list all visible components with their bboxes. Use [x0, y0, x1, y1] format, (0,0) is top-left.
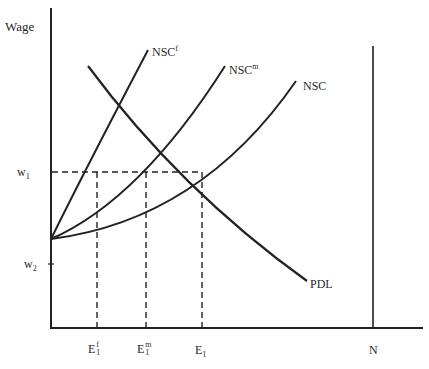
- e1m-sub: 1: [145, 349, 151, 357]
- nsc-label: NSC: [303, 80, 326, 92]
- labor-market-diagram: [0, 0, 429, 369]
- w1-sub: 1: [26, 172, 30, 181]
- pdl-curve: [88, 66, 307, 281]
- nsc-curve: [51, 81, 296, 239]
- e1m-base: E: [137, 342, 144, 356]
- nscf-label: NSCf: [152, 46, 178, 58]
- n-label: N: [369, 344, 378, 356]
- nscm-base: NSC: [229, 63, 252, 77]
- w2-base: w: [24, 257, 33, 271]
- nscm-curve: [51, 66, 225, 239]
- nscf-sup: f: [175, 44, 178, 53]
- nscm-sup: m: [252, 62, 258, 71]
- nscf-base: NSC: [152, 45, 175, 59]
- e1-label: E1: [195, 344, 206, 356]
- pdl-label: PDL: [310, 278, 333, 290]
- w2-label: w2: [24, 258, 37, 270]
- wage-axis-label: Wage: [5, 20, 34, 33]
- nscm-label: NSCm: [229, 64, 259, 76]
- e1f-label: Ef1: [88, 342, 100, 358]
- w1-base: w: [17, 165, 26, 179]
- w2-sub: 2: [33, 264, 37, 273]
- e1f-base: E: [88, 342, 95, 356]
- e1f-sub: 1: [96, 349, 100, 357]
- e1-sub: 1: [202, 350, 206, 359]
- e1m-label: Em1: [137, 342, 152, 358]
- w1-label: w1: [17, 166, 30, 178]
